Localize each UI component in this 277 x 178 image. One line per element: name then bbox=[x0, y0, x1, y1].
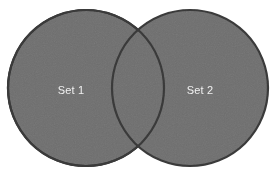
venn-diagram: Set 1 Set 2 bbox=[0, 0, 277, 178]
venn-diagram-canvas: Set 1 Set 2 bbox=[0, 0, 277, 178]
venn-label-set-1: Set 1 bbox=[58, 84, 85, 96]
venn-label-set-2: Set 2 bbox=[187, 84, 214, 96]
